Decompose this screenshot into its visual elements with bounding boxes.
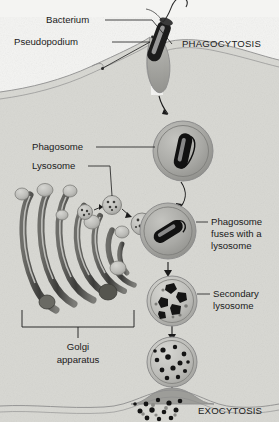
label-fusion-line2: fuses with a [211,228,262,239]
fusion-vesicle [140,203,196,259]
residual-body-vesicle [147,337,197,387]
golgi-vesicle-3 [63,185,77,197]
golgi-vesicle-8 [99,284,117,300]
golgi-vesicle-2 [37,184,53,197]
golgi-vesicle-6 [110,261,126,275]
label-secondary-line1: Secondary [213,288,259,299]
label-lysosome: Lysosome [32,160,75,171]
golgi-vesicle-9 [39,295,55,309]
golgi-vesicle-1 [15,188,29,200]
label-exocytosis: EXOCYTOSIS [198,405,262,416]
phagosome-vesicle [153,121,213,181]
label-phagocytosis: PHAGOCYTOSIS [182,38,261,49]
phagocytosis-diagram: Bacterium Pseudopodium PHAGOCYTOSIS Phag… [0,0,279,422]
label-bacterium: Bacterium [46,14,89,25]
label-pseudopodium: Pseudopodium [14,36,78,47]
lysosome-vesicle-small [78,205,93,220]
label-phagosome: Phagosome [32,141,83,152]
golgi-vesicle-4 [56,210,68,220]
label-golgi-line2: apparatus [57,354,100,365]
label-fusion-line1: Phagosome [211,216,262,227]
lysosome-vesicle-medium [103,196,122,215]
secondary-lysosome-vesicle [147,276,197,326]
golgi-vesicle-7 [115,226,129,238]
label-secondary-line2: lysosome [213,300,254,311]
label-golgi-line1: Golgi [67,341,89,352]
label-fusion-line3: lysosome [211,240,252,251]
diagram-canvas: Bacterium Pseudopodium PHAGOCYTOSIS Phag… [0,0,279,422]
